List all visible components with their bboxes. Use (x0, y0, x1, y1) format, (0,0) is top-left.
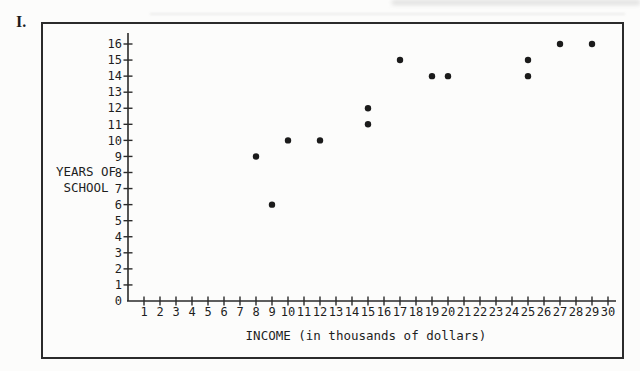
x-tick-label: 15 (361, 305, 375, 319)
y-tick-label: 5 (115, 214, 122, 228)
x-tick-label: 20 (441, 305, 455, 319)
x-tick-label: 21 (457, 305, 471, 319)
x-tick-label: 13 (329, 305, 343, 319)
x-tick-label: 2 (156, 305, 163, 319)
y-tick-label: 6 (115, 198, 122, 212)
x-tick-label: 1 (140, 305, 147, 319)
x-tick-label: 10 (281, 305, 295, 319)
x-axis-title: INCOME (in thousands of dollars) (246, 328, 487, 343)
y-tick-label: 7 (115, 182, 122, 196)
x-tick-label: 24 (505, 305, 519, 319)
x-tick-label: 30 (601, 305, 615, 319)
data-point (253, 153, 259, 159)
data-point (429, 73, 435, 79)
y-tick-label: 2 (115, 262, 122, 276)
x-tick-label: 18 (409, 305, 423, 319)
data-point (525, 57, 531, 63)
data-point (317, 137, 323, 143)
data-point (445, 73, 451, 79)
data-point (269, 201, 275, 207)
data-point (397, 57, 403, 63)
x-tick-label: 16 (377, 305, 391, 319)
x-tick-label: 7 (236, 305, 243, 319)
x-tick-label: 5 (204, 305, 211, 319)
y-tick-label: 0 (115, 294, 122, 308)
data-point (365, 105, 371, 111)
x-tick-label: 9 (268, 305, 275, 319)
data-point (525, 73, 531, 79)
data-point (589, 41, 595, 47)
y-tick-label: 16 (108, 37, 122, 51)
x-tick-label: 17 (393, 305, 407, 319)
y-tick-label: 14 (108, 69, 122, 83)
scanned-page: I. 1234567891011121314151617181920212223… (0, 0, 640, 371)
x-tick-label: 28 (569, 305, 583, 319)
data-point (365, 121, 371, 127)
scatter-chart: 1234567891011121314151617181920212223242… (0, 0, 640, 371)
x-tick-label: 12 (313, 305, 327, 319)
y-tick-label: 12 (108, 101, 122, 115)
y-tick-label: 11 (108, 118, 122, 132)
y-tick-label: 10 (108, 134, 122, 148)
x-tick-label: 14 (345, 305, 359, 319)
y-tick-label: 1 (115, 278, 122, 292)
y-axis-title: SCHOOL (63, 180, 108, 195)
x-tick-label: 11 (297, 305, 311, 319)
data-point (285, 137, 291, 143)
y-tick-label: 15 (108, 53, 122, 67)
x-tick-label: 23 (489, 305, 503, 319)
x-tick-label: 8 (252, 305, 259, 319)
x-tick-label: 29 (585, 305, 599, 319)
y-tick-label: 13 (108, 85, 122, 99)
x-tick-label: 6 (220, 305, 227, 319)
x-tick-label: 27 (553, 305, 567, 319)
x-tick-label: 4 (188, 305, 195, 319)
y-axis-title: YEARS OF (56, 164, 116, 179)
data-point (557, 41, 563, 47)
x-tick-label: 22 (473, 305, 487, 319)
y-tick-label: 4 (115, 230, 122, 244)
x-tick-label: 25 (521, 305, 535, 319)
y-tick-label: 9 (115, 150, 122, 164)
x-tick-label: 3 (172, 305, 179, 319)
y-tick-label: 3 (115, 246, 122, 260)
x-tick-label: 26 (537, 305, 551, 319)
x-tick-label: 19 (425, 305, 439, 319)
